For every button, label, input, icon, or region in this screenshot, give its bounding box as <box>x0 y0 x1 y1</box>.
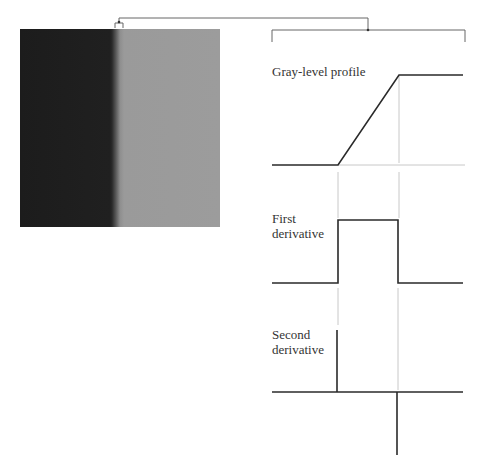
gray-level-profile-curve <box>272 75 463 165</box>
first-derivative-label: First derivative <box>272 211 324 241</box>
first-derivative-label-line2: derivative <box>272 226 324 241</box>
second-derivative-label-line1: Second <box>272 327 324 342</box>
zoom-bracket <box>115 18 465 42</box>
second-derivative-label-line2: derivative <box>272 342 324 357</box>
profile-label: Gray-level profile <box>272 64 365 79</box>
first-derivative-label-line1: First <box>272 211 324 226</box>
derivative-diagram <box>0 0 482 470</box>
guide-lines <box>338 76 465 390</box>
second-derivative-label: Second derivative <box>272 327 324 357</box>
